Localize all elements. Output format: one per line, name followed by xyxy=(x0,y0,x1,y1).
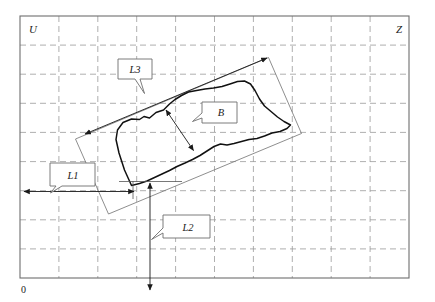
callout-L3[interactable]: L3 xyxy=(118,59,152,94)
callout-L2-box[interactable] xyxy=(152,215,211,240)
vertical-axis-label: U xyxy=(29,23,38,35)
dimension-B xyxy=(166,110,194,151)
callout-L1[interactable]: L1 xyxy=(50,163,95,193)
origin-label: 0 xyxy=(21,284,26,295)
technical-diagram: U Z 0 xyxy=(0,0,435,302)
contour-shape xyxy=(116,81,291,186)
bbox-outline xyxy=(76,58,302,215)
callout-B[interactable]: B xyxy=(193,102,238,123)
callout-B-label: B xyxy=(218,107,225,118)
callout-B-box[interactable] xyxy=(193,102,238,123)
callout-L2-label: L2 xyxy=(181,222,194,233)
callout-L2[interactable]: L2 xyxy=(152,215,211,240)
callout-L3-label: L3 xyxy=(128,64,140,75)
rotated-bounding-box xyxy=(76,58,302,215)
diagram-page: U Z 0 xyxy=(0,0,435,302)
horizontal-axis-label: Z xyxy=(396,23,403,35)
dimension-B-arrow xyxy=(166,110,194,151)
contour-outline xyxy=(116,81,291,186)
callout-L1-label: L1 xyxy=(66,170,78,181)
